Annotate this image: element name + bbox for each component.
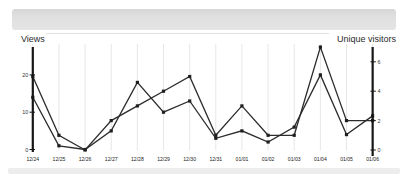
data-point-marker (267, 140, 270, 143)
data-point-marker (214, 137, 217, 140)
x-axis-date-label: 01/03 (288, 156, 301, 162)
x-axis-date-label: 12/25 (53, 156, 66, 162)
data-point-marker (214, 134, 217, 137)
data-point-marker (293, 134, 296, 137)
data-point-marker (319, 73, 322, 76)
data-point-marker (162, 90, 165, 93)
data-point-marker (345, 119, 348, 122)
x-axis-date-label: 12/26 (79, 156, 92, 162)
blurred-footer-band (8, 168, 400, 174)
data-point-marker (319, 46, 322, 49)
left-axis-tick-label: 0 (25, 147, 28, 153)
data-point-marker (110, 129, 113, 132)
data-point-marker (345, 133, 348, 136)
data-point-marker (240, 129, 243, 132)
x-axis-date-label: 12/30 (183, 156, 196, 162)
x-axis-date-label: 12/28 (131, 156, 144, 162)
data-point-marker (188, 99, 191, 102)
x-axis-date-label: 12/24 (26, 156, 39, 162)
data-point-marker (84, 148, 87, 151)
data-point-marker (267, 134, 270, 137)
left-axis-tick-label: 20 (22, 72, 28, 78)
data-point-marker (162, 111, 165, 114)
x-axis-date-label: 01/04 (314, 156, 327, 162)
right-axis-tick-label: 6 (377, 59, 380, 65)
series-line-unique-visitors (33, 47, 373, 150)
traffic-line-chart: 01020024612/2412/2512/2612/2712/2812/291… (0, 0, 408, 189)
x-axis-date-label: 12/29 (157, 156, 170, 162)
data-point-marker (57, 144, 60, 147)
traffic-panel: Views Unique visitors 01020024612/2412/2… (0, 0, 408, 189)
left-axis-tick-label: 10 (22, 109, 28, 115)
data-point-marker (57, 134, 60, 137)
x-axis-date-label: 12/27 (105, 156, 118, 162)
data-point-marker (110, 119, 113, 122)
series-line-views (33, 75, 373, 150)
data-point-marker (188, 75, 191, 78)
x-axis-date-label: 01/06 (366, 156, 379, 162)
x-axis-date-label: 01/01 (236, 156, 249, 162)
data-point-marker (293, 126, 296, 129)
right-axis-tick-label: 4 (377, 88, 380, 94)
right-axis-tick-label: 2 (377, 118, 380, 124)
x-axis-date-label: 01/05 (340, 156, 353, 162)
data-point-marker (136, 104, 139, 107)
x-axis-date-label: 01/02 (262, 156, 275, 162)
data-point-marker (240, 104, 243, 107)
x-axis-date-label: 12/31 (209, 156, 222, 162)
data-point-marker (136, 81, 139, 84)
right-axis-tick-label: 0 (377, 147, 380, 153)
